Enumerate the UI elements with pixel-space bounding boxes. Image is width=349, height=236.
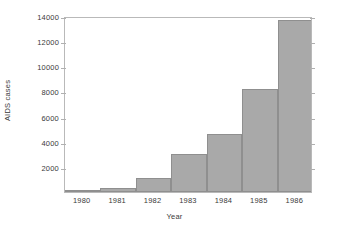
y-tick-label-10000: 10000: [37, 63, 59, 72]
y-tick-right-2000: [310, 169, 315, 170]
y-tick-right-12000: [310, 43, 315, 44]
y-axis-tick-labels: 2000400060008000100001200014000: [26, 17, 59, 193]
bar-1982: [136, 178, 171, 192]
y-tick-label-2000: 2000: [42, 163, 60, 172]
y-tick-left-4000: [61, 144, 66, 145]
y-tick-right-8000: [310, 93, 315, 94]
y-tick-right-10000: [310, 68, 315, 69]
x-tick-label-1982: 1982: [144, 196, 162, 205]
x-tick-label-1984: 1984: [215, 196, 233, 205]
bar-1983: [171, 154, 206, 192]
y-tick-label-8000: 8000: [42, 88, 60, 97]
y-tick-left-2000: [61, 169, 66, 170]
x-tick-label-1983: 1983: [179, 196, 197, 205]
x-tick-label-1985: 1985: [250, 196, 268, 205]
x-tick-label-1981: 1981: [108, 196, 126, 205]
y-tick-right-14000: [310, 18, 315, 19]
y-tick-label-6000: 6000: [42, 113, 60, 122]
y-tick-left-10000: [61, 68, 66, 69]
y-tick-right-6000: [310, 119, 315, 120]
bar-1980: [65, 190, 100, 192]
bar-1984: [207, 134, 242, 192]
y-tick-left-8000: [61, 93, 66, 94]
y-tick-left-14000: [61, 18, 66, 19]
y-tick-label-14000: 14000: [37, 13, 59, 22]
y-axis-title: AIDS cases: [3, 71, 12, 131]
aids-cases-histogram: 2000400060008000100001200014000 19801981…: [0, 0, 349, 236]
bar-1986: [278, 20, 311, 192]
x-axis-tick-labels: 1980198119821983198419851986: [64, 196, 312, 210]
plot-area: [64, 17, 312, 193]
y-tick-left-6000: [61, 119, 66, 120]
bar-1985: [242, 89, 277, 192]
bars-layer: [65, 18, 311, 192]
y-tick-left-12000: [61, 43, 66, 44]
x-tick-label-1986: 1986: [286, 196, 304, 205]
bar-1981: [100, 188, 135, 192]
x-axis-title: Year: [0, 212, 349, 221]
y-tick-label-4000: 4000: [42, 138, 60, 147]
y-tick-right-4000: [310, 144, 315, 145]
y-tick-label-12000: 12000: [37, 38, 59, 47]
x-tick-label-1980: 1980: [73, 196, 91, 205]
